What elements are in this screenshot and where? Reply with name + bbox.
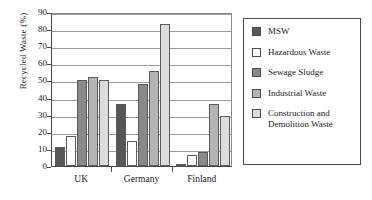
legend-label: Industrial Waste bbox=[268, 88, 326, 99]
legend-swatch-icon bbox=[252, 89, 261, 98]
bar bbox=[116, 104, 126, 166]
bar bbox=[55, 147, 65, 166]
legend-swatch-icon bbox=[252, 109, 261, 118]
y-tick-label: 50 bbox=[7, 76, 47, 85]
bar bbox=[198, 152, 208, 166]
bars-layer bbox=[52, 14, 231, 166]
y-tick-label: 80 bbox=[7, 25, 47, 34]
legend-label: Construction and Demolition Waste bbox=[268, 108, 360, 129]
legend-swatch-icon bbox=[252, 27, 261, 36]
bar bbox=[209, 104, 219, 166]
legend-label: Hazardous Waste bbox=[268, 47, 330, 58]
y-tick-label: 30 bbox=[7, 111, 47, 120]
y-tick-label: 0 bbox=[7, 162, 47, 171]
bar bbox=[88, 77, 98, 166]
y-tick-label: 10 bbox=[7, 145, 47, 154]
y-tick-label: 20 bbox=[7, 128, 47, 137]
legend-item: Sewage Sludge bbox=[252, 67, 360, 78]
bar bbox=[127, 141, 137, 166]
legend-item: Hazardous Waste bbox=[252, 47, 360, 58]
bar bbox=[187, 155, 197, 166]
x-tick-mark bbox=[172, 167, 173, 172]
x-tick-label-finland: Finland bbox=[167, 174, 237, 184]
legend-item: Construction and Demolition Waste bbox=[252, 108, 360, 129]
bar bbox=[176, 164, 186, 166]
bar-chart-figure: Recycled Waste (%) 0102030405060708090 U… bbox=[0, 0, 372, 200]
legend-item: Industrial Waste bbox=[252, 88, 360, 99]
legend-label: Sewage Sludge bbox=[268, 67, 323, 78]
legend-swatch-icon bbox=[252, 48, 261, 57]
chart-legend: MSWHazardous WasteSewage SludgeIndustria… bbox=[243, 18, 361, 165]
plot-area bbox=[51, 13, 232, 167]
bar bbox=[149, 71, 159, 166]
x-tick-mark bbox=[111, 167, 112, 172]
y-tick-label: 70 bbox=[7, 42, 47, 51]
bar bbox=[99, 80, 109, 166]
bar bbox=[77, 80, 87, 166]
bar bbox=[138, 84, 148, 166]
y-tick-label: 40 bbox=[7, 94, 47, 103]
y-tick-label: 90 bbox=[7, 8, 47, 17]
legend-label: MSW bbox=[268, 26, 290, 37]
bar bbox=[220, 116, 230, 166]
y-tick-mark bbox=[47, 167, 51, 168]
bar bbox=[66, 136, 76, 166]
y-tick-label: 60 bbox=[7, 59, 47, 68]
legend-item: MSW bbox=[252, 26, 360, 37]
bar bbox=[160, 24, 170, 166]
legend-swatch-icon bbox=[252, 68, 261, 77]
